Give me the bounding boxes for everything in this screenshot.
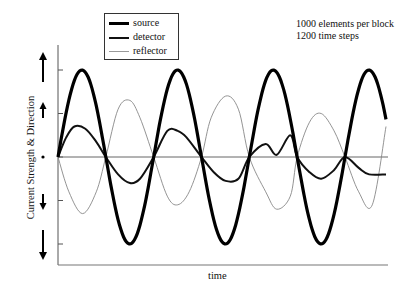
legend-label-detector: detector [133,31,165,43]
legend-label-reflector: reflector [133,45,167,57]
short-up-arrow-icon [40,102,47,118]
annotation-time-steps: 1200 time steps [296,30,359,42]
y-tick-glyphs [39,52,47,260]
chart-canvas [0,0,411,295]
short-down-arrow-icon [40,194,47,210]
long-up-arrow-icon [39,52,47,82]
legend-swatch-detector [109,37,129,39]
legend-label-source: source [133,17,159,29]
detector-series [58,126,386,183]
annotation-elements: 1000 elements per block [296,18,394,30]
legend: source detector reflector [104,13,179,60]
legend-swatch-reflector [109,51,129,52]
legend-swatch-source [109,22,129,25]
zero-dot-icon [41,155,44,158]
y-axis-label: Current Strength & Direction [25,88,36,228]
x-axis-label: time [208,270,227,281]
long-down-arrow-icon [39,230,47,260]
